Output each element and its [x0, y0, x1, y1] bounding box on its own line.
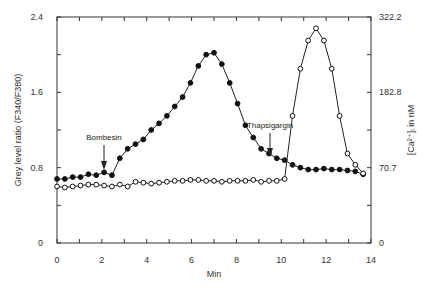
y2-tick-label: 70.7	[379, 163, 397, 173]
filled-circle-marker	[345, 168, 350, 173]
open-circle-marker	[212, 178, 217, 183]
open-circle-marker	[274, 178, 279, 183]
open-circle-marker	[70, 184, 75, 189]
filled-circle-marker	[141, 137, 146, 142]
open-circle-marker	[353, 162, 358, 167]
filled-circle-marker	[314, 167, 319, 172]
filled-circle-marker	[102, 170, 107, 175]
open-circle-marker	[94, 182, 99, 187]
open-circle-marker	[337, 113, 342, 118]
x-axis-label: Min	[207, 269, 222, 279]
y-tick-label: 2.4	[30, 12, 43, 22]
filled-circle-marker	[235, 101, 240, 106]
open-circle-marker	[219, 179, 224, 184]
open-circle-marker	[329, 66, 334, 71]
open-circle-marker	[110, 184, 115, 189]
open-circle-marker	[227, 178, 232, 183]
open-circle-marker	[62, 185, 67, 190]
open-circle-marker	[141, 180, 146, 185]
x-tick-label: 12	[321, 255, 331, 265]
filled-circle-marker	[62, 177, 67, 182]
open-circle-marker	[86, 182, 91, 187]
y2-tick-label: 322.2	[379, 12, 402, 22]
filled-circle-marker	[212, 50, 217, 55]
filled-circle-marker	[204, 52, 209, 57]
x-tick-label: 14	[366, 255, 376, 265]
filled-circle-marker	[86, 172, 91, 177]
open-circle-marker	[172, 178, 177, 183]
x-tick-label: 6	[189, 255, 194, 265]
filled-circle-marker	[133, 142, 138, 147]
open-circle-marker	[180, 178, 185, 183]
filled-circle-marker	[94, 173, 99, 178]
x-tick-label: 0	[54, 255, 59, 265]
open-circle-marker	[361, 171, 366, 176]
open-circle-marker	[282, 177, 287, 182]
filled-circle-marker	[219, 62, 224, 67]
open-circle-marker	[306, 38, 311, 43]
open-circle-marker	[251, 178, 256, 183]
y2-tick-label: 0	[379, 238, 384, 248]
y-tick-label: 0.8	[30, 163, 43, 173]
open-circle-marker	[157, 180, 162, 185]
x-tick-label: 8	[234, 255, 239, 265]
x-tick-label: 10	[276, 255, 286, 265]
series-open-circles	[55, 26, 366, 190]
open-circle-marker	[125, 184, 130, 189]
filled-circle-marker	[306, 167, 311, 172]
filled-circle-marker	[172, 104, 177, 109]
x-tick-label: 4	[144, 255, 149, 265]
filled-circle-marker	[110, 173, 115, 178]
filled-circle-marker	[55, 177, 60, 182]
y2-axis-label: [Ca²⁺]ᵢ in nM	[406, 105, 416, 155]
filled-circle-marker	[290, 162, 295, 167]
filled-circle-marker	[149, 128, 154, 133]
filled-circle-marker	[353, 169, 358, 174]
filled-circle-marker	[337, 167, 342, 172]
filled-circle-marker	[227, 81, 232, 86]
filled-circle-marker	[157, 121, 162, 126]
filled-circle-marker	[298, 165, 303, 170]
open-circle-marker	[259, 179, 264, 184]
x-tick-label: 2	[99, 255, 104, 265]
open-circle-marker	[345, 151, 350, 156]
y2-tick-label: 182.8	[379, 87, 402, 97]
open-circle-marker	[165, 179, 170, 184]
y2-axis-tick-labels: 070.7182.8322.2	[379, 12, 402, 248]
filled-circle-marker	[259, 146, 264, 151]
open-circle-marker	[235, 178, 240, 183]
filled-circle-marker	[274, 156, 279, 161]
open-circle-marker	[55, 184, 60, 189]
open-circle-marker	[314, 26, 319, 31]
filled-circle-marker	[125, 146, 130, 151]
bombesin-arrowhead-icon	[101, 161, 107, 170]
filled-circle-marker	[188, 81, 193, 86]
open-circle-marker	[243, 178, 248, 183]
filled-circle-marker	[180, 95, 185, 100]
filled-circle-marker	[117, 156, 122, 161]
filled-circle-marker	[329, 167, 334, 172]
open-circle-marker	[133, 179, 138, 184]
calcium-ratio-chart: 00.81.62.4 070.7182.8322.2 02468101214 M…	[0, 0, 427, 290]
bombesin-label: Bombesin	[86, 133, 122, 142]
open-circle-marker	[78, 183, 83, 188]
open-circle-marker	[117, 182, 122, 187]
open-circle-marker	[298, 66, 303, 71]
open-circle-marker	[204, 178, 209, 183]
open-circle-marker	[188, 178, 193, 183]
y-axis-label: Grey level ratio (F340/F380)	[13, 74, 23, 187]
y-tick-label: 1.6	[30, 87, 43, 97]
y-tick-label: 0	[38, 238, 43, 248]
open-circle-marker	[267, 178, 272, 183]
filled-circle-marker	[70, 175, 75, 180]
thapsigargin-label: Thapsigargin	[247, 121, 293, 130]
filled-circle-marker	[165, 113, 170, 118]
filled-circle-marker	[322, 166, 327, 171]
filled-circle-marker	[196, 64, 201, 69]
y-axis-tick-labels: 00.81.62.4	[30, 12, 43, 248]
open-circle-marker	[149, 181, 154, 186]
filled-circle-marker	[78, 175, 83, 180]
open-circle-marker	[102, 183, 107, 188]
open-circle-marker	[322, 38, 327, 43]
x-axis-tick-labels: 02468101214	[54, 255, 376, 265]
